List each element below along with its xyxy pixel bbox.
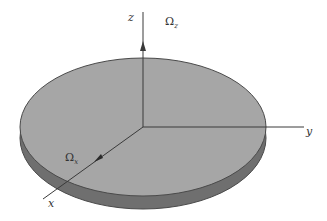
omega-z-symbol: Ω — [165, 15, 174, 28]
omega-z-label: Ωz — [165, 16, 178, 27]
omega-z-subscript: z — [174, 22, 178, 30]
y-axis-label: y — [306, 126, 312, 137]
omega-z-arrow-icon — [140, 41, 146, 51]
omega-x-subscript: x — [74, 158, 78, 166]
x-axis-label: x — [48, 198, 54, 209]
z-axis-label: z — [128, 12, 134, 23]
omega-x-label: Ωx — [65, 152, 78, 163]
omega-x-symbol: Ω — [65, 151, 74, 164]
disk-diagram — [0, 0, 327, 221]
